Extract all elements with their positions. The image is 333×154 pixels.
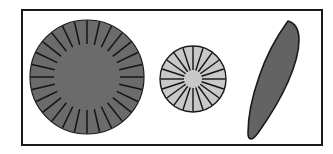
small-disc: [160, 46, 226, 112]
figure-panel: Plant structure diagram: two radial disc…: [0, 0, 333, 154]
large-disc: [30, 20, 144, 134]
diagram-canvas: [0, 0, 333, 154]
